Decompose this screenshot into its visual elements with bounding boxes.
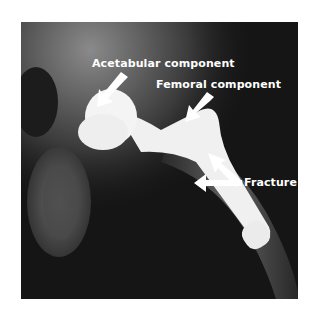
fracture-label: Fracture xyxy=(244,177,297,188)
acetabular-component-label: Acetabular component xyxy=(92,58,235,69)
femoral-component-label: Femoral component xyxy=(156,79,281,90)
xray-image: Acetabular component Femoral component F… xyxy=(21,22,298,299)
